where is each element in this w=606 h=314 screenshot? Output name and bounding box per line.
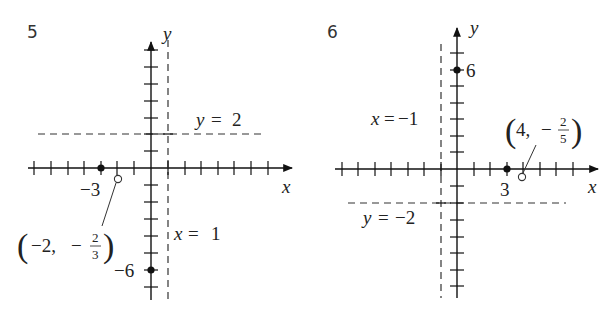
- graph-5-hole-label: ( −2, − 2 3 ): [17, 227, 114, 265]
- graph-5-y-intercept-label: −6: [114, 260, 134, 281]
- svg-text:(: (: [505, 112, 516, 150]
- graph-6: 6: [327, 17, 598, 298]
- svg-text:=: =: [384, 108, 395, 129]
- graph-5-y-intercept-point: [147, 266, 154, 273]
- svg-text:2: 2: [560, 114, 567, 129]
- svg-text:(: (: [17, 227, 28, 265]
- svg-text:−: −: [71, 235, 82, 256]
- svg-text:2: 2: [232, 109, 242, 130]
- svg-text:y: y: [194, 109, 205, 130]
- graph-5-x-axis-label: x: [281, 176, 291, 197]
- graph-5-x-intercept-point: [97, 164, 104, 171]
- graph-5: 5: [17, 22, 292, 300]
- svg-text:x: x: [370, 108, 380, 129]
- diagram-canvas: 5: [0, 0, 606, 314]
- graph-5-x-intercept-label: −3: [80, 179, 100, 200]
- svg-text:−: −: [541, 119, 552, 140]
- graph-6-number: 6: [327, 22, 338, 42]
- svg-text:1: 1: [211, 223, 221, 244]
- svg-text:): ): [103, 227, 114, 265]
- graph-6-y-intercept-point: [453, 66, 460, 73]
- svg-text:−2,: −2,: [31, 235, 56, 256]
- graph-5-horizontal-asymptote-label: y = 2: [194, 109, 242, 130]
- graph-5-number: 5: [27, 22, 38, 42]
- svg-text:x: x: [173, 223, 183, 244]
- svg-text:−2: −2: [395, 207, 415, 228]
- graph-5-y-axis-label: y: [161, 23, 172, 44]
- graph-6-horizontal-asymptote-label: y = −2: [361, 207, 415, 228]
- svg-text:−1: −1: [398, 108, 418, 129]
- svg-text:5: 5: [560, 131, 567, 146]
- graph-5-hole-leader-line: [102, 183, 116, 226]
- svg-text:): ): [571, 112, 582, 150]
- graph-6-vertical-asymptote-label: x = −1: [370, 108, 418, 129]
- svg-text:=: =: [188, 223, 199, 244]
- svg-text:4,: 4,: [516, 119, 530, 140]
- graph-6-y-axis-label: y: [468, 17, 479, 38]
- svg-text:2: 2: [92, 230, 99, 245]
- graph-6-y-intercept-label: 6: [466, 60, 476, 81]
- svg-text:=: =: [378, 207, 389, 228]
- svg-text:=: =: [211, 109, 222, 130]
- graph-6-hole-label: ( 4, − 2 5 ): [505, 112, 582, 150]
- svg-text:3: 3: [92, 247, 99, 262]
- graph-6-hole-point: [518, 173, 525, 180]
- graph-6-x-axis-label: x: [587, 176, 597, 197]
- graph-5-hole-point: [114, 175, 121, 182]
- graph-5-vertical-asymptote-label: x = 1: [173, 223, 221, 244]
- graph-6-x-intercept-point: [503, 165, 510, 172]
- graph-6-x-intercept-label: 3: [500, 179, 510, 200]
- svg-text:y: y: [361, 207, 372, 228]
